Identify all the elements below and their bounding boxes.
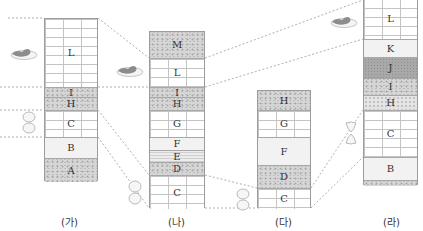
- layer-label: A: [67, 166, 74, 176]
- layer-label: I: [175, 88, 179, 98]
- layer-label: E: [173, 152, 180, 162]
- layer-I: I: [150, 88, 204, 98]
- layer-label: M: [172, 40, 182, 50]
- trilobite-fossil-icon: [8, 45, 38, 61]
- layer-C: C: [258, 189, 310, 209]
- layer-F: F: [150, 138, 204, 151]
- layer-H: H: [258, 91, 310, 111]
- column-label-ra: (라): [383, 214, 400, 229]
- layer-label: C: [173, 188, 181, 198]
- layer-B: B: [45, 138, 97, 159]
- layer-F: F: [258, 138, 310, 166]
- layer-label: I: [69, 88, 73, 98]
- shell-fossil-icon: [128, 180, 142, 206]
- layer-base: [364, 181, 417, 186]
- layer-label: C: [67, 119, 75, 129]
- layer-I: I: [45, 88, 97, 98]
- column-na: M L I H G F E D C: [149, 31, 205, 208]
- layer-label: F: [174, 139, 181, 149]
- layer-label: C: [280, 194, 288, 204]
- layer-label: L: [174, 68, 181, 78]
- column-label-ga: (가): [61, 214, 78, 229]
- trilobite-fossil-icon: [114, 62, 144, 78]
- layer-label: G: [173, 119, 181, 129]
- column-ra: L K J I H C B: [363, 0, 418, 185]
- layer-label: C: [387, 129, 395, 139]
- column-label-da: (다): [275, 214, 292, 229]
- layer-A: A: [45, 159, 97, 182]
- shell-fossil-icon: [344, 121, 358, 145]
- layer-label: H: [280, 96, 289, 106]
- layer-D: D: [150, 163, 204, 176]
- layer-G: G: [258, 111, 310, 138]
- layer-C: C: [150, 176, 204, 209]
- layer-B: B: [364, 158, 417, 181]
- layer-L: L: [364, 0, 417, 40]
- layer-label: L: [387, 14, 394, 24]
- layer-label: G: [280, 119, 288, 129]
- layer-label: K: [387, 44, 394, 54]
- layer-label: H: [67, 99, 76, 109]
- layer-label: D: [173, 164, 181, 174]
- column-da: H G F D C: [257, 90, 311, 208]
- layer-E: E: [150, 151, 204, 163]
- layer-label: B: [387, 164, 394, 174]
- layer-label: L: [68, 48, 75, 58]
- column-label-na: (나): [168, 214, 185, 229]
- layer-I: I: [364, 79, 417, 96]
- shell-fossil-icon: [22, 111, 36, 135]
- column-ga: L I H C B A: [44, 18, 98, 181]
- shell-fossil-icon: [236, 188, 250, 212]
- layer-H: H: [150, 98, 204, 111]
- layer-label: I: [389, 82, 393, 92]
- layer-label: F: [281, 147, 288, 157]
- layer-label: H: [386, 98, 395, 108]
- layer-L: L: [150, 59, 204, 88]
- layer-C: C: [45, 111, 97, 138]
- layer-K: K: [364, 40, 417, 58]
- layer-M: M: [150, 32, 204, 59]
- layer-G: G: [150, 111, 204, 138]
- layer-J: J: [364, 58, 417, 79]
- layer-H: H: [364, 96, 417, 111]
- layer-C: C: [364, 111, 417, 158]
- layer-label: H: [173, 99, 182, 109]
- trilobite-fossil-icon: [328, 13, 358, 29]
- layer-label: B: [67, 143, 74, 153]
- layer-label: D: [280, 172, 288, 182]
- layer-L: L: [45, 19, 97, 88]
- layer-label: J: [388, 63, 392, 73]
- layer-D: D: [258, 166, 310, 189]
- layer-H: H: [45, 98, 97, 111]
